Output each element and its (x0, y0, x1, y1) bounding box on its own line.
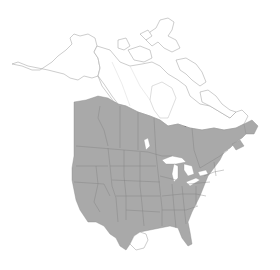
alaska-region (12, 34, 100, 80)
banks-island (118, 38, 130, 50)
victoria-island (128, 46, 152, 62)
range-map (0, 0, 280, 270)
newfoundland (244, 120, 258, 134)
